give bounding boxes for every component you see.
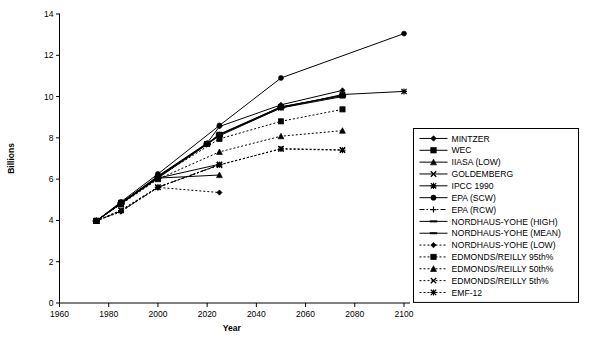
- series-epa-scw: [94, 31, 407, 223]
- y-tick-label: 2: [49, 257, 54, 267]
- series-nordhaus-yohe-low: [94, 185, 222, 224]
- legend-item[interactable]: NORDHAUS-YOHE (MEAN): [420, 228, 561, 238]
- data-point-marker: [402, 31, 407, 36]
- legend-item[interactable]: EDMONDS/REILLY 5th%: [420, 276, 549, 286]
- data-point-marker: [118, 208, 124, 214]
- legend-label: IIASA (LOW): [452, 157, 501, 167]
- legend-sample-marker: [431, 242, 436, 247]
- series-nordhaus-yohe-mean: [93, 97, 346, 221]
- data-point-marker: [217, 123, 222, 128]
- data-point-marker: [339, 147, 345, 153]
- legend-item[interactable]: EMF-12: [420, 288, 483, 298]
- data-point-marker: [217, 136, 222, 141]
- data-point-marker: [217, 149, 223, 155]
- x-tick-label: 2100: [395, 309, 414, 319]
- series-mintzer: [94, 88, 345, 224]
- x-tick-label: 1980: [99, 309, 118, 319]
- legend-sample-marker: [430, 289, 436, 295]
- legend-label: EDMONDS/REILLY 50th%: [452, 264, 554, 274]
- legend-label: EPA (RCW): [452, 205, 497, 215]
- legend-label: IPCC 1990: [452, 181, 494, 191]
- legend-item[interactable]: WEC: [420, 145, 472, 155]
- series-emf-12: [93, 146, 345, 224]
- legend-item[interactable]: EDMONDS/REILLY 50th%: [420, 264, 554, 274]
- data-point-marker: [217, 190, 222, 195]
- data-point-marker: [278, 133, 284, 139]
- y-tick-label: 4: [49, 215, 54, 225]
- chart-legend: MINTZERWECIIASA (LOW)GOLDEMBERGIPCC 1990…: [414, 129, 579, 303]
- y-tick-label: 12: [44, 50, 54, 60]
- y-tick-label: 8: [49, 133, 54, 143]
- y-axis-title: Billions: [6, 143, 16, 174]
- legend-label: EDMONDS/REILLY 5th%: [452, 276, 549, 286]
- data-point-marker: [401, 88, 407, 94]
- x-axis-title: Year: [223, 323, 242, 333]
- series-line: [96, 34, 404, 221]
- legend-item[interactable]: EDMONDS/REILLY 95th%: [420, 252, 554, 262]
- legend-sample-marker: [431, 195, 436, 200]
- x-tick-label: 2060: [296, 309, 315, 319]
- data-point-marker: [278, 119, 283, 124]
- x-tick-label: 1960: [50, 309, 69, 319]
- legend-item[interactable]: IPCC 1990: [420, 181, 494, 191]
- series-line: [96, 91, 404, 220]
- legend-item[interactable]: EPA (RCW): [420, 205, 497, 215]
- legend-label: NORDHAUS-YOHE (LOW): [452, 240, 556, 250]
- legend-sample-marker: [431, 207, 437, 213]
- plot-area: [93, 31, 407, 224]
- legend-item[interactable]: MINTZER: [420, 134, 490, 144]
- legend-label: NORDHAUS-YOHE (MEAN): [452, 228, 561, 238]
- legend-item[interactable]: EPA (SCW): [420, 193, 496, 203]
- legend-label: NORDHAUS-YOHE (HIGH): [452, 217, 558, 227]
- series-line: [96, 149, 342, 221]
- legend-label: GOLDEMBERG: [452, 169, 514, 179]
- legend-sample-marker: [431, 148, 436, 153]
- population-projection-chart: 0246810121419601980200020202040206020802…: [0, 0, 591, 342]
- data-point-marker: [216, 162, 222, 168]
- legend-item[interactable]: NORDHAUS-YOHE (HIGH): [420, 217, 558, 227]
- series-line: [96, 90, 342, 220]
- y-tick-label: 14: [44, 9, 54, 19]
- legend-sample-marker: [431, 136, 436, 141]
- x-tick-label: 2040: [247, 309, 266, 319]
- x-tick-label: 2020: [198, 309, 217, 319]
- chart-canvas: 0246810121419601980200020202040206020802…: [0, 0, 591, 342]
- legend-label: EMF-12: [452, 288, 483, 298]
- data-point-marker: [278, 146, 284, 152]
- y-tick-label: 10: [44, 92, 54, 102]
- series-edmonds-reilly-5th: [94, 146, 345, 223]
- series-line: [96, 149, 342, 221]
- data-point-marker: [278, 76, 283, 81]
- legend-label: EPA (SCW): [452, 193, 496, 203]
- series-line: [96, 187, 219, 220]
- y-tick-label: 6: [49, 174, 54, 184]
- data-point-marker: [155, 184, 161, 190]
- legend-label: MINTZER: [452, 134, 490, 144]
- data-point-marker: [340, 107, 345, 112]
- series-ipcc-1990: [93, 88, 407, 223]
- legend-item[interactable]: NORDHAUS-YOHE (LOW): [420, 240, 556, 250]
- series-nordhaus-yohe-high: [93, 96, 346, 221]
- x-tick-label: 2080: [345, 309, 364, 319]
- y-tick-label: 0: [49, 298, 54, 308]
- legend-label: EDMONDS/REILLY 95th%: [452, 252, 554, 262]
- axes: 0246810121419601980200020202040206020802…: [6, 9, 414, 333]
- legend-sample-marker: [430, 183, 436, 189]
- legend-sample-marker: [431, 254, 436, 259]
- legend-label: WEC: [452, 145, 472, 155]
- x-tick-label: 2000: [148, 309, 167, 319]
- legend-item[interactable]: IIASA (LOW): [420, 157, 501, 167]
- data-point-marker: [93, 218, 99, 224]
- legend-item[interactable]: GOLDEMBERG: [420, 169, 514, 179]
